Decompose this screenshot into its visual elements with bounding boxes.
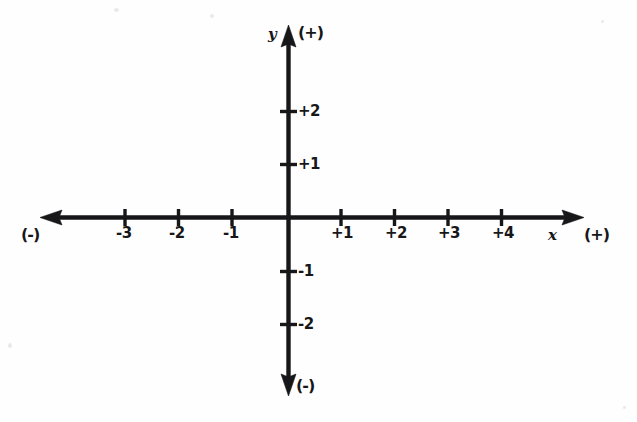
y-tick-label-+1: +1 (298, 157, 320, 172)
y-tick-label--1: -1 (298, 264, 314, 279)
x-tick-label-+3: +3 (438, 226, 460, 241)
x-tick-label-+1: +1 (331, 226, 353, 241)
y-axis-top-arrowhead (281, 25, 296, 47)
y-tick-label-+2: +2 (298, 104, 320, 119)
x-tick-label--3: -3 (116, 226, 132, 241)
y-tick-label--2: -2 (298, 317, 314, 332)
y-axis-name-label: y (268, 27, 277, 42)
x-tick-label--2: -2 (169, 226, 185, 241)
x-axis-negative-sign-label: (-) (21, 227, 39, 243)
x-axis-positive-sign-label: (+) (584, 227, 609, 243)
y-axis-negative-sign-label: (-) (296, 378, 314, 394)
y-axis-positive-sign-label: (+) (298, 25, 323, 41)
x-axis-name-label: x (548, 228, 557, 243)
coordinate-axes-figure: -3 -2 -1 +1 +2 +3 +4 +2 +1 -1 -2 (-) x (… (0, 0, 637, 422)
x-tick-label-+2: +2 (385, 226, 407, 241)
y-axis-bottom-arrowhead (281, 374, 296, 396)
x-tick-label--1: -1 (223, 226, 239, 241)
x-axis-right-arrowhead (562, 210, 584, 225)
x-tick-label-+4: +4 (492, 226, 514, 241)
x-axis-left-arrowhead (40, 210, 62, 225)
axes-drawing (0, 0, 637, 422)
